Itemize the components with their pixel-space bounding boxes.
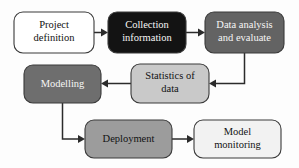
node-model-monitoring[interactable]: Model monitoring (194, 120, 281, 158)
node-data-analysis-and-evaluate[interactable]: Data analysis and evaluate (205, 12, 284, 53)
node-collection-information-label-line2: information (122, 32, 172, 43)
node-collection-information-label-line1: Collection (125, 19, 169, 30)
node-collection-information[interactable]: Collection information (108, 12, 186, 53)
node-data-analysis-and-evaluate-label-line1: Data analysis (216, 19, 272, 30)
edge-statistics-to-modelling (101, 80, 131, 88)
node-modelling[interactable]: Modelling (24, 65, 101, 103)
node-project-definition-label-line1: Project (39, 19, 69, 30)
flowchart-diagram: Project definition Collection informatio… (0, 0, 299, 168)
node-modelling-label-line1: Modelling (41, 78, 85, 89)
node-model-monitoring-label-line1: Model (224, 126, 251, 137)
node-deployment-label-line1: Deployment (103, 133, 155, 144)
node-data-analysis-and-evaluate-label-line2: and evaluate (218, 32, 271, 43)
node-deployment[interactable]: Deployment (85, 120, 172, 158)
node-project-definition-label-line2: definition (34, 32, 76, 43)
node-model-monitoring-label-line2: monitoring (214, 139, 261, 150)
node-statistics-of-data-label-line2: data (161, 83, 179, 94)
edge-modelling-to-deployment (63, 103, 86, 143)
edge-collection-to-analysis (186, 29, 205, 37)
edge-deployment-to-monitoring (172, 135, 194, 143)
node-statistics-of-data-label-line1: Statistics of (145, 70, 195, 81)
node-project-definition[interactable]: Project definition (14, 12, 94, 53)
flowchart-canvas: Project definition Collection informatio… (0, 0, 299, 168)
node-statistics-of-data[interactable]: Statistics of data (131, 64, 209, 103)
edge-project-to-collection (94, 29, 108, 37)
edge-analysis-to-statistics (209, 53, 245, 87)
